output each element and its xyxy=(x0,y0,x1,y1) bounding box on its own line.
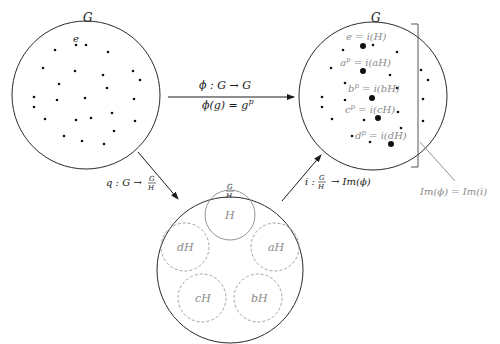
phi-arrow: ϕ : G → G ϕ(g) = gp xyxy=(168,79,294,112)
group-element-dot xyxy=(400,127,403,130)
group-element-dot xyxy=(106,87,109,90)
left-group-g: G e xyxy=(12,11,160,169)
quotient-group: G H H aH bH cH dH xyxy=(157,183,303,343)
i-fraction-num: G xyxy=(319,174,325,182)
quotient-label-den: H xyxy=(225,192,233,200)
group-homomorphism-diagram: G e G e = i(H) ap = i(aH) bp = i(bH) cp … xyxy=(0,0,500,344)
image-element-dot xyxy=(388,141,394,147)
group-element-dot xyxy=(133,98,136,101)
group-element-dot xyxy=(420,69,423,72)
group-element-dot xyxy=(33,96,36,99)
group-element-dot xyxy=(102,74,105,77)
group-element-dot xyxy=(344,82,347,85)
q-fraction-den: H xyxy=(147,184,155,192)
group-element-dot xyxy=(58,83,61,86)
identity-label: e xyxy=(73,33,79,44)
svg-text:aH: aH xyxy=(268,241,285,254)
group-element-dot xyxy=(54,49,57,52)
coset-dh: dH xyxy=(161,223,209,271)
svg-text:H: H xyxy=(224,209,235,222)
group-element-dot xyxy=(90,117,93,120)
group-element-dot xyxy=(33,106,36,109)
group-element-dot xyxy=(321,106,324,109)
right-group-g: G e = i(H) ap = i(aH) bp = i(bH) cp = i(… xyxy=(299,11,487,197)
svg-text:dH: dH xyxy=(177,241,194,254)
image-bracket-leader xyxy=(420,142,455,181)
i-map-suffix: → Im(ϕ) xyxy=(331,176,371,187)
group-element-dot xyxy=(134,120,137,123)
group-element-dot xyxy=(363,119,366,122)
group-element-dot xyxy=(75,44,78,47)
group-element-dot xyxy=(107,51,110,54)
group-element-dot xyxy=(342,49,345,52)
group-element-dot xyxy=(389,74,392,77)
group-element-dot xyxy=(397,111,400,114)
q-map-label: q : G → xyxy=(106,177,142,188)
right-group-label: G xyxy=(371,11,381,25)
i-fraction-den: H xyxy=(317,183,325,191)
phi-map-label: ϕ : G → G xyxy=(199,79,251,92)
image-element-dot xyxy=(369,95,375,101)
group-element-dot xyxy=(85,44,88,47)
coset-ah: aH xyxy=(251,223,299,271)
svg-text:bH: bH xyxy=(251,292,268,305)
image-equality-label: Im(ϕ) = Im(i) xyxy=(419,186,487,197)
group-element-dot xyxy=(56,99,59,102)
left-group-label: G xyxy=(83,11,93,25)
group-element-dot xyxy=(103,143,106,146)
group-element-dot xyxy=(396,51,399,54)
group-element-dot xyxy=(113,130,116,133)
group-element-dot xyxy=(330,67,333,70)
group-element-dot xyxy=(74,70,77,73)
image-label-b: bp = i(bH) xyxy=(348,82,400,94)
group-element-dot xyxy=(44,118,47,121)
group-element-dot xyxy=(321,96,324,99)
q-fraction-num: G xyxy=(149,175,155,183)
group-element-dot xyxy=(331,118,334,121)
image-element-dot xyxy=(360,43,366,49)
group-element-dot xyxy=(81,140,84,143)
group-element-dot xyxy=(427,79,430,82)
left-group-elements xyxy=(33,44,142,146)
group-element-dot xyxy=(369,141,372,144)
i-arrow: i : G H → Im(ϕ) xyxy=(282,155,371,201)
image-labels: e = i(H) ap = i(aH) bp = i(bH) cp = i(cH… xyxy=(340,31,407,141)
image-label-d: dp = i(dH) xyxy=(355,129,407,141)
group-element-dot xyxy=(351,135,354,138)
image-label-e: e = i(H) xyxy=(346,31,386,42)
image-element-dot xyxy=(375,115,381,121)
image-label-c: cp = i(cH) xyxy=(345,103,395,115)
group-element-dot xyxy=(344,99,347,102)
group-element-dot xyxy=(63,135,66,138)
image-label-a: ap = i(aH) xyxy=(340,56,391,68)
svg-text:cH: cH xyxy=(195,292,211,305)
group-element-dot xyxy=(372,44,375,47)
group-element-dot xyxy=(111,112,114,115)
group-element-dot xyxy=(422,98,425,101)
group-element-dot xyxy=(139,79,142,82)
group-element-dot xyxy=(132,70,135,73)
group-element-dot xyxy=(422,120,425,123)
group-element-dot xyxy=(84,97,87,100)
i-map-prefix: i : xyxy=(305,176,315,187)
coset-bh: bH xyxy=(234,274,282,322)
group-element-dot xyxy=(42,67,45,70)
image-element-dot xyxy=(360,68,366,74)
coset-ch: cH xyxy=(178,274,226,322)
group-element-dot xyxy=(75,119,78,122)
q-arrow: q : G → G H xyxy=(106,152,178,199)
phi-definition-label: ϕ(g) = gp xyxy=(202,97,254,112)
image-bracket xyxy=(411,24,418,167)
